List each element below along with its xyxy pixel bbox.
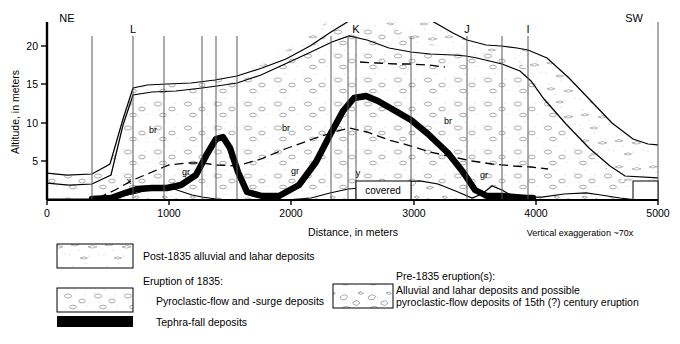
y-tick-label: 10	[26, 117, 38, 129]
orientation-label-sw: SW	[625, 12, 643, 24]
unit-label-y: y	[356, 168, 361, 178]
x-tick-label: 3000	[402, 207, 426, 219]
drill-hole-label-j: J	[464, 23, 470, 35]
covered-interval: covered	[356, 181, 411, 200]
drill-hole-label-l: L	[130, 23, 136, 35]
cross-section-figure: covered 20 15 10 5 Altitude, in meters 0…	[0, 0, 680, 344]
y-tick-label: 20	[26, 40, 38, 52]
legend-heading-pre-1835: Pre-1835 eruption(s):	[396, 270, 495, 282]
unit-label-br: br	[444, 116, 452, 126]
covered-label: covered	[365, 185, 401, 196]
legend-label-post-1835: Post-1835 alluvial and lahar deposits	[143, 250, 315, 262]
x-axis-title: Distance, in meters	[308, 226, 398, 238]
x-tick-labels: 0 1000 2000 3000 4000 5000	[44, 207, 670, 219]
legend-label-tephra-fall: Tephra-fall deposits	[156, 316, 247, 328]
x-tick-label: 4000	[524, 207, 548, 219]
vertical-exaggeration-note: Vertical exaggeration ~70x	[527, 228, 634, 238]
legend-swatch-post-1835	[57, 244, 133, 268]
x-tick-label: 0	[44, 207, 50, 219]
unit-label-gr: gr	[291, 166, 299, 176]
unit-label-br: br	[149, 125, 157, 135]
drill-hole-label-k: K	[352, 23, 360, 35]
unit-label-x: x	[127, 176, 132, 186]
legend-swatch-pre-1835	[333, 284, 393, 308]
legend-swatch-tephra-fall	[57, 316, 133, 327]
x-tick-label: 2000	[279, 207, 303, 219]
legend-label-pre-1835-line1: Alluvial and lahar deposits and possible	[396, 284, 580, 296]
orientation-label-ne: NE	[59, 12, 74, 24]
cross-section-body	[47, 8, 658, 200]
legend-label-pyroclastic-1835: Pyroclastic-flow and -surge deposits	[156, 295, 324, 307]
legend: Post-1835 alluvial and lahar deposits Er…	[57, 244, 639, 328]
y-tick-label: 15	[26, 78, 38, 90]
section-end-box	[633, 181, 658, 200]
y-tick-label: 5	[32, 155, 38, 167]
drill-hole-label-i: I	[526, 23, 529, 35]
x-tick-label: 1000	[157, 207, 181, 219]
legend-heading-eruption-1835: Eruption of 1835:	[143, 275, 223, 287]
y-tick-labels: 20 15 10 5	[26, 40, 38, 167]
x-tick-label: 5000	[646, 207, 670, 219]
legend-swatch-pyroclastic-1835	[57, 288, 133, 312]
unit-label-gr: gr	[480, 170, 488, 180]
legend-label-pre-1835-line2: pyroclastic-flow deposits of 15th (?) ce…	[396, 296, 639, 308]
y-axis-title: Altitude, in meters	[9, 70, 21, 154]
unit-label-gr: gr	[182, 167, 190, 177]
unit-label-br: br	[282, 123, 290, 133]
